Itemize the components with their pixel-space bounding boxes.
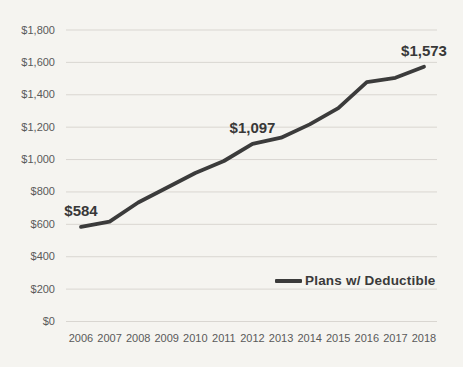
y-axis-tick-label: $1,400 [21, 88, 55, 100]
x-axis-tick-label: 2011 [212, 332, 236, 344]
y-axis-tick-label: $1,000 [21, 153, 55, 165]
data-label-2018: $1,573 [401, 42, 447, 59]
x-axis-tick-label: 2009 [155, 332, 179, 344]
x-axis-tick-label: 2014 [297, 332, 321, 344]
x-axis-tick-label: 2017 [383, 332, 407, 344]
x-axis-tick-label: 2007 [97, 332, 121, 344]
legend-line-swatch [275, 279, 302, 283]
x-axis-tick-label: 2008 [126, 332, 150, 344]
x-axis-tick-label: 2006 [69, 332, 93, 344]
y-axis-tick-label: $400 [31, 250, 55, 262]
x-axis-tick-label: 2015 [326, 332, 350, 344]
data-label-2006: $584 [64, 202, 98, 219]
x-axis-tick-label: 2013 [269, 332, 293, 344]
y-axis-tick-label: $800 [31, 185, 55, 197]
x-axis-tick-label: 2018 [412, 332, 436, 344]
x-axis-tick-label: 2010 [183, 332, 207, 344]
y-axis-tick-label: $0 [43, 315, 55, 327]
y-axis-tick-label: $1,800 [21, 24, 55, 36]
y-axis-tick-label: $1,200 [21, 121, 55, 133]
y-axis-tick-label: $600 [31, 218, 55, 230]
legend-label: Plans w/ Deductible [305, 273, 436, 288]
y-axis-tick-label: $1,600 [21, 56, 55, 68]
series-line-plans-w-deductible [81, 67, 424, 227]
data-label-2012: $1,097 [230, 119, 276, 136]
deductible-line-chart: $0$200$400$600$800$1,000$1,200$1,400$1,6… [0, 0, 463, 367]
x-axis-tick-label: 2016 [355, 332, 379, 344]
y-axis-tick-label: $200 [31, 283, 55, 295]
x-axis-tick-label: 2012 [240, 332, 264, 344]
legend: Plans w/ Deductible [275, 273, 436, 288]
line-chart-canvas: $0$200$400$600$800$1,000$1,200$1,400$1,6… [0, 0, 463, 367]
